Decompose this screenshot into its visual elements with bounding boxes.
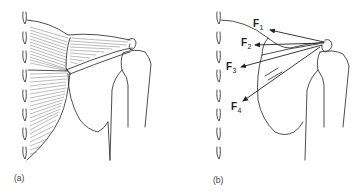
shoulder-diagram: (a) (0, 0, 356, 195)
humerus-a (108, 50, 151, 160)
force-arrows (241, 30, 324, 101)
force-label-f2: F2 (241, 37, 252, 50)
spine-vertebrae-a (23, 12, 27, 159)
panel-b-label: (b) (213, 175, 224, 185)
force-arrow-f4 (243, 47, 320, 101)
panel-a: (a) (14, 12, 151, 183)
force-label-f4: F4 (231, 101, 242, 114)
force-label-f3: F3 (226, 61, 237, 74)
spine-vertebrae-b (217, 12, 221, 159)
force-arrow-f1 (270, 30, 324, 42)
humerus-b (305, 51, 349, 160)
panel-b: F1 F2 F3 F4 (b) (213, 12, 349, 185)
panel-a-label: (a) (14, 173, 25, 183)
force-arrow-f3 (241, 45, 322, 67)
trapezius-muscle (27, 20, 130, 160)
